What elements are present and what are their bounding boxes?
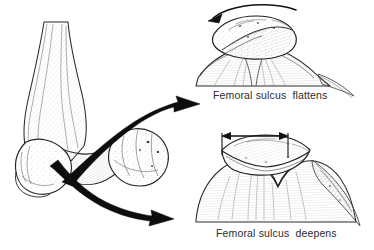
caption-femoral-sulcus-flattens: Femoral sulcus flattens [213,90,327,101]
patella-tilted-axial-view [196,5,354,98]
illustration-page: Femoral sulcus flattens Femoral sulcus d… [0,0,374,250]
distal-femur-oblique-view [15,22,200,226]
patella-seated-axial-view [196,132,360,226]
anatomy-figure [0,0,374,250]
caption-femoral-sulcus-deepens: Femoral sulcus deepens [216,228,337,239]
rotation-arrow-head [208,14,222,23]
